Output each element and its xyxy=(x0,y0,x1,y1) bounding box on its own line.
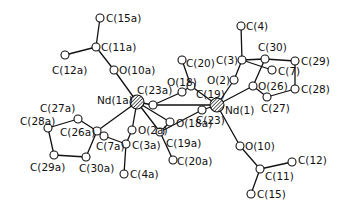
atom-o2a xyxy=(128,126,136,134)
atom-label-c7: C(7) xyxy=(278,65,300,77)
bond-c11-c12 xyxy=(260,162,292,169)
atom-label-c28: C(28) xyxy=(301,83,330,95)
atom-label-c3a: C(3a) xyxy=(132,139,161,151)
atom-c12a xyxy=(61,51,69,59)
atom-label-c12: C(12) xyxy=(298,154,327,166)
atom-c27a xyxy=(74,115,82,123)
atom-label-c20a: C(20a) xyxy=(177,155,212,167)
atom-label-c12a: C(12a) xyxy=(52,64,87,76)
atom-label-c11: C(11) xyxy=(265,170,294,182)
atom-label-c20: C(20) xyxy=(186,57,215,69)
atom-c7a xyxy=(100,132,108,140)
atom-c20 xyxy=(178,56,186,64)
atom-label-o10a: O(10a) xyxy=(119,64,155,76)
atom-c11 xyxy=(256,165,264,173)
atom-c23 xyxy=(198,106,206,114)
atom-c20a xyxy=(169,156,177,164)
atom-o2 xyxy=(230,76,238,84)
atom-label-o18a: O(18a) xyxy=(176,117,212,129)
bond-c11a-c12a xyxy=(65,47,96,55)
atom-label-c11a: C(11a) xyxy=(101,41,136,53)
atom-c3 xyxy=(238,56,246,64)
atom-label-c3: C(3) xyxy=(216,54,238,66)
atom-c12 xyxy=(288,158,296,166)
atom-label-c4a: C(4a) xyxy=(130,168,159,180)
bond-c3-c4 xyxy=(241,26,242,60)
atom-label-c29: C(29) xyxy=(301,55,330,67)
atom-c4 xyxy=(237,22,245,30)
atom-o26 xyxy=(249,82,257,90)
atom-c15a xyxy=(96,14,104,22)
atom-label-c19: C(19) xyxy=(196,88,225,100)
bond-c29a-c30a xyxy=(54,155,86,157)
atom-label-o18: O(18) xyxy=(167,76,197,88)
atom-label-c19a: C(19a) xyxy=(166,137,201,149)
atom-label-nd1: Nd(1) xyxy=(225,104,254,116)
atom-c30 xyxy=(261,55,269,63)
atom-label-c30a: C(30a) xyxy=(79,162,114,174)
atom-o10 xyxy=(236,142,244,150)
atom-label-c26a: C(26a) xyxy=(60,126,95,138)
molecular-structure-diagram: C(15a)C(11a)C(12a)O(10a)Nd(1a)C(23a)O(18… xyxy=(0,0,346,207)
atom-label-c4: C(4) xyxy=(246,20,268,32)
atom-c11a xyxy=(92,43,100,51)
atom-o18 xyxy=(178,88,186,96)
atom-c29a xyxy=(50,151,58,159)
atom-label-c27a: C(27a) xyxy=(40,102,75,114)
atom-label-c15a: C(15a) xyxy=(106,12,141,24)
labels-layer: C(15a)C(11a)C(12a)O(10a)Nd(1a)C(23a)O(18… xyxy=(20,12,330,200)
atom-label-o10: O(10) xyxy=(245,140,275,152)
atom-label-c29a: C(29a) xyxy=(30,161,65,173)
atom-label-o2a: O(2a) xyxy=(138,124,168,136)
atom-label-nd1a: Nd(1a) xyxy=(97,94,133,106)
atom-c4a xyxy=(120,170,128,178)
atom-label-c27: C(27) xyxy=(261,102,290,114)
atom-label-o2: O(2) xyxy=(207,74,230,86)
atom-label-c30: C(30) xyxy=(258,41,287,53)
atom-label-c7a: C(7a) xyxy=(96,140,125,152)
atom-c28 xyxy=(291,85,299,93)
atom-c15 xyxy=(247,190,255,198)
atom-label-c15: C(15) xyxy=(257,188,286,200)
atom-c7 xyxy=(268,66,276,74)
atom-c30a xyxy=(82,153,90,161)
atom-c27 xyxy=(263,93,271,101)
atom-o10a xyxy=(110,66,118,74)
atom-c23a xyxy=(149,101,157,109)
atom-nd1 xyxy=(210,98,224,112)
atom-label-c28a: C(28a) xyxy=(20,115,55,127)
atom-label-o26: O(26) xyxy=(258,80,288,92)
atom-c29 xyxy=(291,57,299,65)
